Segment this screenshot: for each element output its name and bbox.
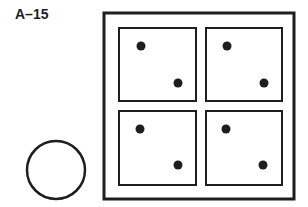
answer-circle [27, 141, 85, 199]
dot [137, 42, 146, 51]
figure-canvas [0, 0, 308, 207]
dot [174, 161, 183, 170]
dot [223, 42, 232, 51]
panel-top-right [206, 28, 282, 101]
dot [259, 161, 268, 170]
dot [136, 125, 145, 134]
panel-bottom-right [206, 111, 282, 185]
dot [174, 79, 183, 88]
outer-frame [104, 13, 294, 199]
dot [260, 79, 269, 88]
panel-bottom-left [119, 111, 196, 185]
panel-top-left [119, 28, 196, 101]
dot [222, 125, 231, 134]
